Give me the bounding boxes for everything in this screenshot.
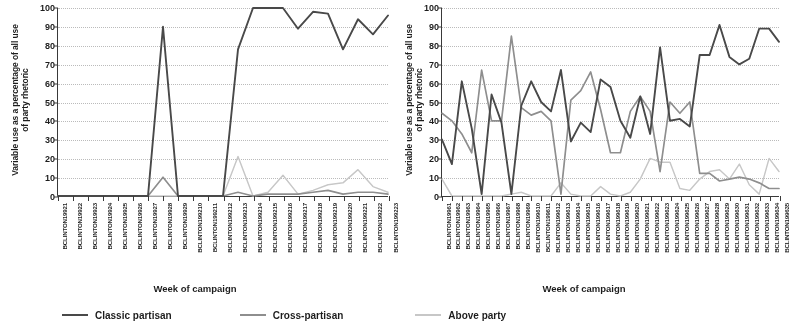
x-axis-tick-label: BCLINTON19968 (514, 131, 521, 203)
x-axis-tick-label: BCLINTON199222 (376, 131, 383, 203)
x-axis-tick-label: BCLINTON199633 (763, 131, 770, 203)
x-axis-tick-label: BCLINTON199623 (663, 131, 670, 203)
x-axis-tick-label: BCLINTON199624 (673, 131, 680, 203)
x-axis-tick-label: BCLINTON19924 (106, 131, 113, 203)
legend-swatch-icon-classic-partisan (62, 314, 88, 316)
x-axis-tick-label: BCLINTON199626 (693, 131, 700, 203)
legend-label-above-party: Above party (448, 310, 506, 321)
x-axis-tick-label: BCLINTON199210 (196, 131, 203, 203)
x-axis-tick-label: BCLINTON19964 (474, 131, 481, 203)
x-axis-tick-label: BCLINTON199621 (643, 131, 650, 203)
x-axis-tick-label: BCLINTON199610 (534, 131, 541, 203)
x-axis-tick-label: BCLINTON19922 (76, 131, 83, 203)
plot-area-1992: 0102030405060708090100 BCLINTON19921BCLI… (57, 8, 388, 197)
x-axis-tick-label: BCLINTON199216 (286, 131, 293, 203)
x-axis-tick-label: BCLINTON19929 (181, 131, 188, 203)
x-axis-tick-label: BCLINTON199634 (773, 131, 780, 203)
x-axis-tick-label: BCLINTON19928 (166, 131, 173, 203)
x-axis-tick-label: BCLINTON199218 (316, 131, 323, 203)
chart-legend: Classic partisan Cross-partisan Above pa… (0, 303, 788, 327)
x-axis-tick-label: BCLINTON19967 (504, 131, 511, 203)
x-axis-tick-label: BCLINTON199211 (211, 131, 218, 203)
legend-label-cross-partisan: Cross-partisan (273, 310, 344, 321)
x-axis-tick-label: BCLINTON19962 (454, 131, 461, 203)
x-axis-tick-label: BCLINTON199221 (361, 131, 368, 203)
legend-item-cross-partisan: Cross-partisan (240, 310, 344, 321)
x-axis-tick-label: BCLINTON19927 (151, 131, 158, 203)
x-axis-labels-1996: BCLINTON19961BCLINTON19962BCLINTON19963B… (442, 196, 779, 276)
x-axis-tick-label: BCLINTON199635 (783, 131, 790, 203)
x-axis-labels-1992: BCLINTON19921BCLINTON19922BCLINTON19923B… (58, 196, 388, 276)
x-axis-tick-label: BCLINTON199214 (256, 131, 263, 203)
x-axis-tick-label: BCLINTON199614 (574, 131, 581, 203)
x-axis-tick-label: BCLINTON199213 (241, 131, 248, 203)
x-axis-tick-label: BCLINTON19966 (494, 131, 501, 203)
x-axis-tick-label: BCLINTON199632 (753, 131, 760, 203)
x-axis-tick-label: BCLINTON19965 (484, 131, 491, 203)
plot-area-1996: 0102030405060708090100 BCLINTON19961BCLI… (441, 8, 779, 197)
x-axis-tick-label: BCLINTON199613 (564, 131, 571, 203)
x-axis-tick-label: BCLINTON199215 (271, 131, 278, 203)
x-axis-tick-label: BCLINTON199620 (633, 131, 640, 203)
y-axis-title-line2: of party rhetoric (20, 0, 42, 200)
legend-label-classic-partisan: Classic partisan (95, 310, 172, 321)
x-axis-title-1992: Week of campaign (25, 283, 365, 294)
legend-item-above-party: Above party (415, 310, 506, 321)
x-axis-tick-label: BCLINTON199612 (554, 131, 561, 203)
x-axis-tick-label: BCLINTON19961 (445, 131, 452, 203)
x-axis-tick-label: BCLINTON199631 (743, 131, 750, 203)
x-axis-tick-label: BCLINTON199625 (683, 131, 690, 203)
x-axis-tick-label: BCLINTON199618 (614, 131, 621, 203)
x-axis-tick-label: BCLINTON19969 (524, 131, 531, 203)
x-axis-tick-label: BCLINTON199617 (604, 131, 611, 203)
x-axis-tick-label: BCLINTON19963 (464, 131, 471, 203)
x-axis-tick-label: BCLINTON199219 (331, 131, 338, 203)
legend-item-classic-partisan: Classic partisan (62, 310, 172, 321)
chart-panel-1992: Variable use as a percentage of all use … (0, 0, 394, 300)
x-axis-tick-label: BCLINTON19923 (91, 131, 98, 203)
x-axis-tick-label: BCLINTON199217 (301, 131, 308, 203)
legend-swatch-icon-cross-partisan (240, 314, 266, 316)
x-axis-tick-label: BCLINTON199622 (653, 131, 660, 203)
x-axis-tick-label: BCLINTON199611 (544, 131, 551, 203)
chart-panels: Variable use as a percentage of all use … (0, 0, 788, 300)
x-axis-tick-mark (780, 196, 781, 201)
x-axis-tick-label: BCLINTON199629 (723, 131, 730, 203)
x-axis-tick-label: BCLINTON19925 (121, 131, 128, 203)
y-axis-tick-label: 100 (424, 3, 439, 13)
x-axis-tick-label: BCLINTON19921 (61, 131, 68, 203)
x-axis-tick-label: BCLINTON199615 (584, 131, 591, 203)
x-axis-tick-label: BCLINTON199627 (703, 131, 710, 203)
legend-swatch-icon-above-party (415, 314, 441, 316)
x-axis-tick-label: BCLINTON199616 (594, 131, 601, 203)
x-axis-tick-label: BCLINTON199619 (623, 131, 630, 203)
chart-panel-1996: Variable use as a percentage of all use … (394, 0, 788, 300)
x-axis-tick-label: BCLINTON199220 (346, 131, 353, 203)
x-axis-tick-label: BCLINTON19926 (136, 131, 143, 203)
x-axis-title-1996: Week of campaign (414, 283, 754, 294)
x-axis-tick-label: BCLINTON199212 (226, 131, 233, 203)
y-axis-tick-label: 100 (40, 3, 55, 13)
x-axis-tick-label: BCLINTON199630 (733, 131, 740, 203)
x-axis-tick-label: BCLINTON199628 (713, 131, 720, 203)
x-axis-tick-mark (389, 196, 390, 201)
